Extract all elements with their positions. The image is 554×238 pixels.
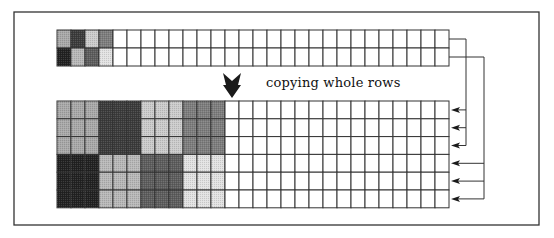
grid-cell — [267, 30, 281, 48]
grid-cell — [421, 190, 435, 208]
grid-cell — [337, 137, 351, 155]
grid-cell — [379, 190, 393, 208]
grid-cell — [197, 48, 211, 66]
grid-cell — [393, 137, 407, 155]
grid-cell — [379, 172, 393, 190]
grid-cell — [225, 119, 239, 137]
grid-cell — [281, 154, 295, 172]
grid-cell — [267, 101, 281, 119]
grid-cell — [211, 30, 225, 48]
grid-cell — [407, 172, 421, 190]
grid-cell — [309, 119, 323, 137]
grid-cell — [351, 190, 365, 208]
grid-cell — [365, 190, 379, 208]
grid-cell — [323, 48, 337, 66]
grid-cell — [393, 172, 407, 190]
grid-cell — [337, 172, 351, 190]
grid-cell — [267, 172, 281, 190]
grid-cell — [435, 154, 449, 172]
grid-cell — [407, 101, 421, 119]
grid-cell — [365, 48, 379, 66]
grid-cell — [267, 137, 281, 155]
grid-cell — [309, 190, 323, 208]
diagram-svg — [0, 0, 554, 238]
grid-cell — [435, 190, 449, 208]
grid-cell — [141, 48, 155, 66]
grid-cell — [267, 154, 281, 172]
grid-cell — [155, 48, 169, 66]
grid-cell — [379, 48, 393, 66]
grid-cell — [379, 137, 393, 155]
source-grid — [57, 30, 449, 66]
grid-cell — [225, 172, 239, 190]
grid-cell — [127, 48, 141, 66]
grid-cell — [225, 190, 239, 208]
grid-cell — [113, 30, 127, 48]
grid-cell — [239, 190, 253, 208]
grid-cell — [253, 154, 267, 172]
grid-cell — [393, 48, 407, 66]
grid-cell — [337, 101, 351, 119]
grid-cell — [351, 48, 365, 66]
grid-cell — [309, 172, 323, 190]
grid-cell — [281, 48, 295, 66]
grid-cell — [253, 101, 267, 119]
grid-cell — [435, 137, 449, 155]
grid-cell — [379, 30, 393, 48]
grid-cell — [393, 119, 407, 137]
grid-cell — [435, 101, 449, 119]
grid-cell — [253, 48, 267, 66]
grid-cell — [295, 154, 309, 172]
grid-cell — [197, 30, 211, 48]
grid-cell — [309, 101, 323, 119]
grid-cell — [435, 30, 449, 48]
grid-cell — [141, 30, 155, 48]
grid-cell — [337, 119, 351, 137]
grid-cell — [421, 48, 435, 66]
grid-cell — [323, 101, 337, 119]
grid-cell — [183, 30, 197, 48]
grid-cell — [379, 154, 393, 172]
grid-cell — [351, 172, 365, 190]
grid-cell — [225, 137, 239, 155]
grid-cell — [113, 48, 127, 66]
grid-cell — [295, 190, 309, 208]
grid-cell — [337, 154, 351, 172]
grid-cell — [295, 137, 309, 155]
grid-cell — [337, 30, 351, 48]
grid-cell — [239, 101, 253, 119]
grid-cell — [337, 48, 351, 66]
grid-cell — [365, 154, 379, 172]
grid-cell — [351, 154, 365, 172]
grid-cell — [267, 48, 281, 66]
grid-cell — [365, 137, 379, 155]
grid-cell — [407, 137, 421, 155]
grid-cell — [407, 30, 421, 48]
down-arrow-icon — [223, 73, 241, 98]
grid-cell — [351, 101, 365, 119]
grid-cell — [435, 119, 449, 137]
grid-cell — [393, 101, 407, 119]
grid-cell — [295, 172, 309, 190]
grid-cell — [365, 30, 379, 48]
caption-label: copying whole rows — [266, 75, 401, 90]
grid-cell — [323, 119, 337, 137]
expanded-grid — [57, 101, 449, 208]
grid-cell — [281, 30, 295, 48]
grid-cell — [309, 30, 323, 48]
grid-cell — [239, 137, 253, 155]
grid-cell — [379, 119, 393, 137]
grid-cell — [379, 101, 393, 119]
grid-cell — [239, 119, 253, 137]
grid-cell — [393, 30, 407, 48]
grid-cell — [253, 172, 267, 190]
grid-cell — [239, 48, 253, 66]
grid-cell — [295, 101, 309, 119]
grid-cell — [435, 48, 449, 66]
grid-cell — [393, 154, 407, 172]
grid-cell — [253, 137, 267, 155]
grid-cell — [351, 119, 365, 137]
grid-cell — [239, 30, 253, 48]
grid-cell — [393, 190, 407, 208]
grid-cell — [309, 48, 323, 66]
